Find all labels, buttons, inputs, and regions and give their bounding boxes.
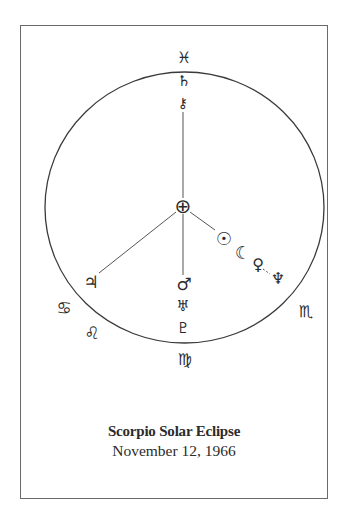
spoke-sun [190, 212, 215, 230]
venus-icon: ♀ [252, 255, 264, 274]
diagram-date: November 12, 1966 [20, 442, 328, 460]
sun-icon: ☉ [216, 228, 232, 249]
chiron-icon: ⚷ [178, 95, 188, 111]
pisces-icon: ♓ [177, 48, 191, 67]
cancer-icon: ♋ [56, 298, 71, 318]
virgo-icon: ♍ [178, 350, 192, 369]
mars-icon: ♂ [176, 274, 191, 294]
spoke-neptune-dashed [263, 269, 270, 274]
pluto-icon: ♇ [176, 319, 189, 337]
spoke-jupiter [99, 212, 176, 273]
uranus-icon: ♅ [176, 297, 189, 315]
saturn-icon: ♄ [177, 72, 190, 90]
neptune-icon: ♆ [271, 269, 285, 288]
diagram-title: Scorpio Solar Eclipse [20, 423, 328, 440]
jupiter-icon: ♃ [83, 272, 98, 292]
moon-icon: ☾ [235, 242, 251, 263]
scorpio-icon: ♏ [299, 302, 313, 321]
leo-icon: ♌ [84, 323, 99, 343]
earth-icon: ⊕ [175, 194, 192, 218]
